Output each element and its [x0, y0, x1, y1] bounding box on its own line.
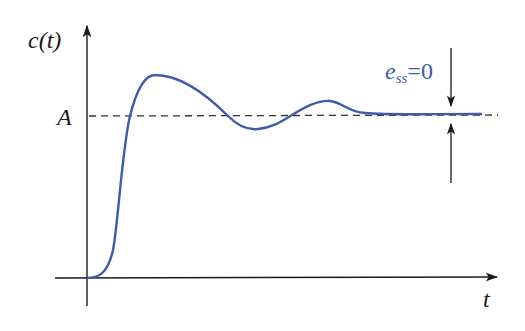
y-axis-label: c(t): [28, 27, 61, 53]
x-axis-label: t: [483, 286, 491, 312]
step-response-diagram: c(t) A t ess=0: [0, 0, 525, 331]
steady-state-error-label: ess=0: [385, 58, 433, 86]
reference-level-label: A: [55, 104, 72, 130]
error-symbol: e: [385, 58, 396, 84]
error-value: =0: [407, 58, 433, 84]
response-curve: [87, 75, 482, 278]
error-subscript: ss: [396, 70, 408, 86]
x-axis: [55, 277, 497, 278]
